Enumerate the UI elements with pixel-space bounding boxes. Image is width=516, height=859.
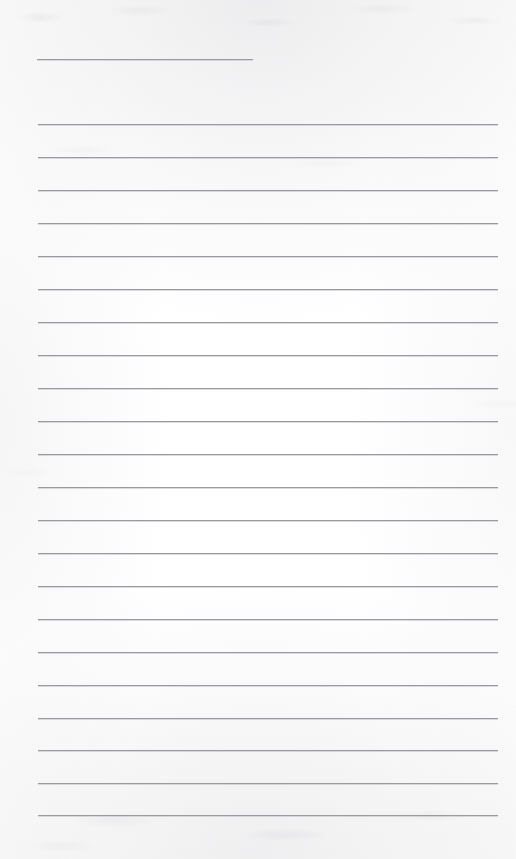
rule-line: [38, 652, 498, 653]
scanned-page: [0, 0, 516, 859]
rule-line: [38, 355, 498, 356]
rule-line: [38, 750, 498, 751]
rule-line: [38, 718, 498, 719]
rule-line: [38, 783, 498, 784]
rule-line: [38, 289, 498, 290]
rule-line: [38, 124, 498, 125]
rule-line: [38, 190, 498, 191]
rule-line: [38, 157, 498, 158]
rule-line: [38, 815, 498, 816]
rule-line: [38, 223, 498, 224]
rule-line: [38, 520, 498, 521]
rule-line: [38, 454, 498, 455]
rule-line: [38, 619, 498, 620]
rule-line: [38, 388, 498, 389]
rule-line: [38, 553, 498, 554]
rule-line: [38, 685, 498, 686]
rule-line: [38, 421, 498, 422]
ruled-lines-layer: [0, 0, 516, 859]
rule-line: [38, 487, 498, 488]
rule-line: [38, 586, 498, 587]
rule-line: [38, 256, 498, 257]
rule-line: [38, 322, 498, 323]
rule-line-short: [37, 59, 253, 60]
